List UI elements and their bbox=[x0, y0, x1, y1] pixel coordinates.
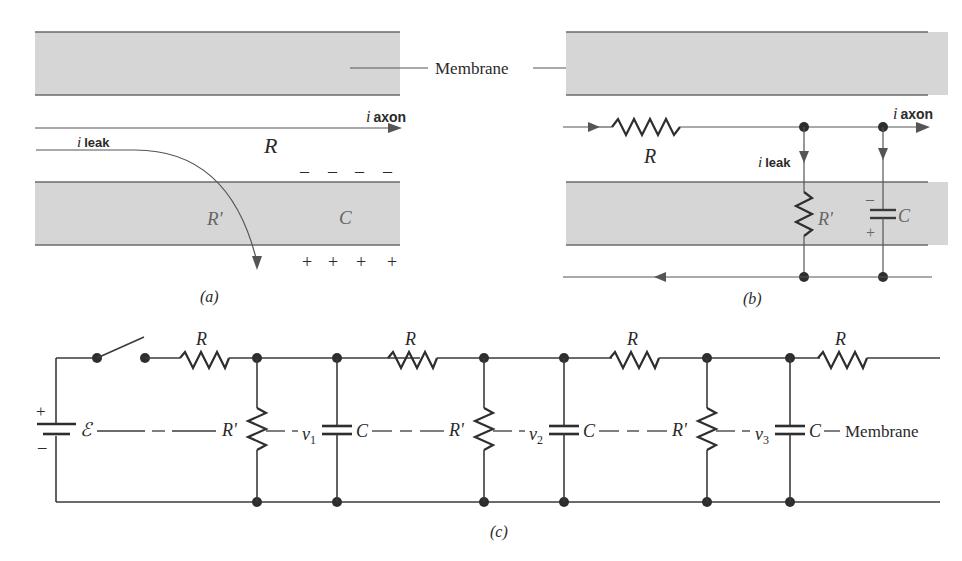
membrane-capacitance-label-b: C bbox=[898, 206, 911, 226]
emf-label: ℰ bbox=[80, 419, 94, 440]
svg-text:–: – bbox=[327, 161, 338, 181]
battery-plus: + bbox=[36, 402, 46, 421]
voltage-label-2: v2 bbox=[529, 424, 543, 447]
axon-resistance-label-a: R bbox=[263, 133, 278, 158]
shunt-resistor-1 bbox=[248, 408, 266, 450]
capacitor-minus-b: – bbox=[865, 190, 875, 207]
voltage-label-3: v3 bbox=[755, 424, 769, 447]
axon-cable-model-figure: Membrane iaxon ileak R R' C – – – – + bbox=[0, 0, 962, 561]
axon-resistance-label-b: R bbox=[643, 145, 656, 167]
axon-wire-b bbox=[563, 119, 930, 135]
series-resistor-4 bbox=[818, 352, 867, 368]
capacitor-label-2: C bbox=[583, 421, 596, 441]
series-resistor-label-2: R bbox=[404, 329, 416, 349]
series-resistor-label-3: R bbox=[626, 329, 638, 349]
voltage-label-1: v1 bbox=[302, 424, 316, 447]
capacitor-label-3: C bbox=[809, 421, 822, 441]
negative-charges-a: – – – – bbox=[299, 161, 393, 181]
membrane-label-c: Membrane bbox=[845, 422, 919, 441]
shunt-resistor-label-2: R' bbox=[448, 420, 465, 440]
i-leak-label-a: ileak bbox=[77, 134, 110, 150]
caption-c: (c) bbox=[490, 523, 508, 541]
axon-current-arrow-a bbox=[35, 123, 402, 133]
i-axon-label-b: iaxon bbox=[893, 105, 933, 122]
panel-a: Membrane iaxon ileak R R' C – – – – + bbox=[35, 32, 608, 306]
top-membrane-b bbox=[566, 32, 948, 95]
svg-text:–: – bbox=[299, 161, 310, 181]
series-resistor-1 bbox=[180, 352, 229, 368]
series-resistor-label-1: R bbox=[195, 329, 207, 349]
axon-resistor-b bbox=[612, 119, 680, 135]
shunt-resistor-label-3: R' bbox=[671, 420, 688, 440]
svg-text:+: + bbox=[356, 252, 366, 272]
shunt-resistor-2 bbox=[475, 408, 493, 450]
membrane-label-top: Membrane bbox=[435, 59, 509, 78]
return-wire-b bbox=[563, 272, 932, 282]
positive-charges-a: + + + + bbox=[302, 252, 397, 272]
capacitor-label-1: C bbox=[356, 421, 369, 441]
membrane-capacitance-label-a: C bbox=[339, 207, 352, 228]
i-leak-label-b: ileak bbox=[758, 154, 791, 170]
svg-text:+: + bbox=[387, 252, 397, 272]
caption-a: (a) bbox=[200, 288, 219, 306]
series-resistor-label-4: R bbox=[834, 329, 846, 349]
shunt-resistor-label-1: R' bbox=[221, 420, 238, 440]
series-resistor-3 bbox=[610, 352, 659, 368]
panel-c: + – ℰ R R' C v1 R bbox=[36, 329, 940, 541]
svg-text:–: – bbox=[354, 161, 365, 181]
shunt-resistor-3 bbox=[698, 408, 716, 450]
capacitor-plus-b: + bbox=[866, 224, 875, 241]
svg-text:+: + bbox=[328, 252, 338, 272]
caption-b: (b) bbox=[743, 290, 762, 308]
series-resistor-2 bbox=[388, 352, 437, 368]
membrane-resistance-label-b: R' bbox=[817, 209, 834, 229]
i-axon-label-a: iaxon bbox=[366, 108, 406, 125]
membrane-resistance-label-a: R' bbox=[206, 208, 224, 229]
battery-minus: – bbox=[37, 437, 47, 456]
svg-text:–: – bbox=[382, 161, 393, 181]
switch bbox=[92, 337, 180, 363]
svg-text:+: + bbox=[302, 252, 312, 272]
top-membrane-a bbox=[35, 32, 400, 95]
bottom-membrane-b bbox=[566, 182, 948, 245]
panel-b: R iaxon ileak R' – + C bbox=[563, 32, 948, 308]
